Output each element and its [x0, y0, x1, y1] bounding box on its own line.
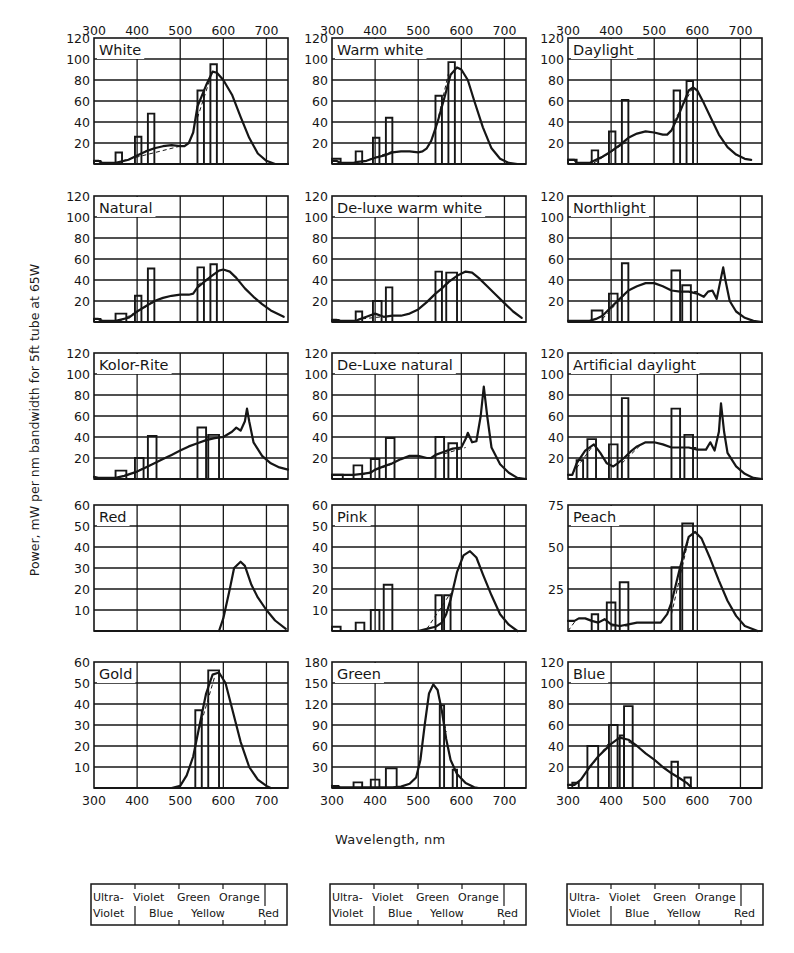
- panel-title: Natural: [99, 200, 152, 216]
- band-label: Orange: [219, 891, 260, 904]
- panel-title: Green: [337, 666, 381, 682]
- y-axis-label: Power, mW per nm bandwidth for 5ft tube …: [27, 264, 42, 576]
- band-label: Green: [653, 891, 686, 904]
- y-tick-label: 80: [312, 73, 328, 88]
- y-tick-label: 60: [312, 252, 328, 267]
- x-tick-label: 700: [729, 793, 753, 808]
- y-tick-label: 60: [312, 409, 328, 424]
- y-tick-label: 180: [304, 655, 328, 670]
- panel-northlight: Northlight20406080100120: [540, 189, 762, 322]
- color-band-legend: Ultra-VioletGreenOrangeVioletBlueYellowR…: [567, 884, 763, 925]
- spectral-line-bar: [386, 768, 397, 788]
- y-tick-label: 120: [540, 346, 564, 361]
- panel-title: De-Luxe natural: [337, 357, 453, 373]
- spectral-line-bar: [609, 725, 618, 788]
- y-tick-label: 30: [312, 561, 328, 576]
- spectral-line-bar: [356, 623, 365, 631]
- panel-natural: Natural20406080100120: [66, 189, 288, 322]
- y-tick-label: 120: [540, 655, 564, 670]
- band-label: Violet: [569, 907, 601, 920]
- x-tick-label: 700: [493, 23, 517, 38]
- spectral-line-bar: [386, 118, 392, 164]
- y-tick-label: 40: [74, 273, 90, 288]
- y-tick-label: 80: [312, 231, 328, 246]
- y-tick-label: 25: [548, 582, 564, 597]
- spectral-line-bar: [671, 409, 680, 479]
- x-tick-label: 300: [82, 793, 106, 808]
- spectral-line-bar: [373, 301, 382, 322]
- band-label: Green: [177, 891, 210, 904]
- x-tick-label: 700: [255, 793, 279, 808]
- x-tick-label: 300: [82, 23, 106, 38]
- y-tick-label: 120: [304, 346, 328, 361]
- x-tick-label: 600: [685, 23, 709, 38]
- y-tick-label: 75: [548, 498, 564, 513]
- band-label: Violet: [93, 907, 125, 920]
- panel-title: De-luxe warm white: [337, 200, 482, 216]
- panel-title: Red: [99, 509, 127, 525]
- continuum-dashed-line: [622, 444, 641, 463]
- band-label: Yellow: [666, 907, 701, 920]
- band-label: Yellow: [190, 907, 225, 920]
- y-tick-label: 80: [548, 73, 564, 88]
- x-tick-label: 600: [211, 793, 235, 808]
- y-tick-label: 40: [74, 430, 90, 445]
- y-tick-label: 120: [66, 346, 90, 361]
- spectral-curve: [568, 403, 762, 479]
- spectral-line-bar: [384, 585, 393, 631]
- x-tick-label: 500: [642, 23, 666, 38]
- y-tick-label: 20: [312, 582, 328, 597]
- y-tick-label: 90: [312, 718, 328, 733]
- spectral-line-bar: [609, 444, 618, 479]
- y-tick-label: 40: [548, 430, 564, 445]
- y-tick-label: 100: [304, 210, 328, 225]
- y-tick-label: 20: [548, 136, 564, 151]
- panel-title: Artificial daylight: [573, 357, 696, 373]
- panel-gold: Gold102030405060300400500600700: [74, 655, 288, 808]
- band-label: Red: [258, 907, 279, 920]
- band-label: Yellow: [429, 907, 464, 920]
- x-tick-label: 400: [125, 793, 149, 808]
- spectral-line-bar: [624, 706, 633, 788]
- y-tick-label: 80: [74, 231, 90, 246]
- panel-blue: Blue20406080100120300400500600700: [540, 655, 762, 808]
- y-tick-label: 30: [74, 561, 90, 576]
- spectral-curve: [219, 562, 286, 631]
- y-tick-label: 80: [312, 388, 328, 403]
- band-label: Violet: [609, 891, 641, 904]
- spectral-line-bar: [197, 428, 206, 479]
- y-tick-label: 30: [312, 760, 328, 775]
- panel-title: Daylight: [573, 42, 634, 58]
- spectral-line-bar: [197, 267, 203, 322]
- y-tick-label: 30: [74, 718, 90, 733]
- y-tick-label: 20: [548, 760, 564, 775]
- y-tick-label: 10: [74, 603, 90, 618]
- spectral-line-bar: [135, 137, 141, 164]
- band-label: Orange: [695, 891, 736, 904]
- y-tick-label: 40: [312, 273, 328, 288]
- spectral-line-bar: [435, 272, 441, 322]
- y-tick-label: 20: [74, 294, 90, 309]
- spectral-line-bar: [354, 465, 363, 479]
- y-tick-label: 40: [548, 273, 564, 288]
- y-tick-label: 40: [74, 540, 90, 555]
- x-tick-label: 400: [599, 23, 623, 38]
- y-tick-label: 60: [74, 94, 90, 109]
- y-tick-label: 40: [312, 430, 328, 445]
- panel-kolor-rite: Kolor-Rite20406080100120: [66, 346, 288, 479]
- y-tick-label: 100: [540, 367, 564, 382]
- spectral-line-bar: [208, 435, 219, 479]
- band-label: Violet: [133, 891, 165, 904]
- panel-title: Northlight: [573, 200, 646, 216]
- band-label: Violet: [332, 907, 364, 920]
- y-tick-label: 150: [304, 676, 328, 691]
- spectral-line-bar: [148, 114, 154, 164]
- panel-peach: Peach255075: [548, 498, 762, 631]
- y-tick-label: 40: [548, 739, 564, 754]
- y-tick-label: 120: [540, 189, 564, 204]
- y-tick-label: 20: [312, 294, 328, 309]
- y-tick-label: 120: [304, 697, 328, 712]
- y-tick-label: 40: [74, 697, 90, 712]
- panel-artificial-daylight: Artificial daylight20406080100120: [540, 346, 762, 479]
- panel-title: Gold: [99, 666, 132, 682]
